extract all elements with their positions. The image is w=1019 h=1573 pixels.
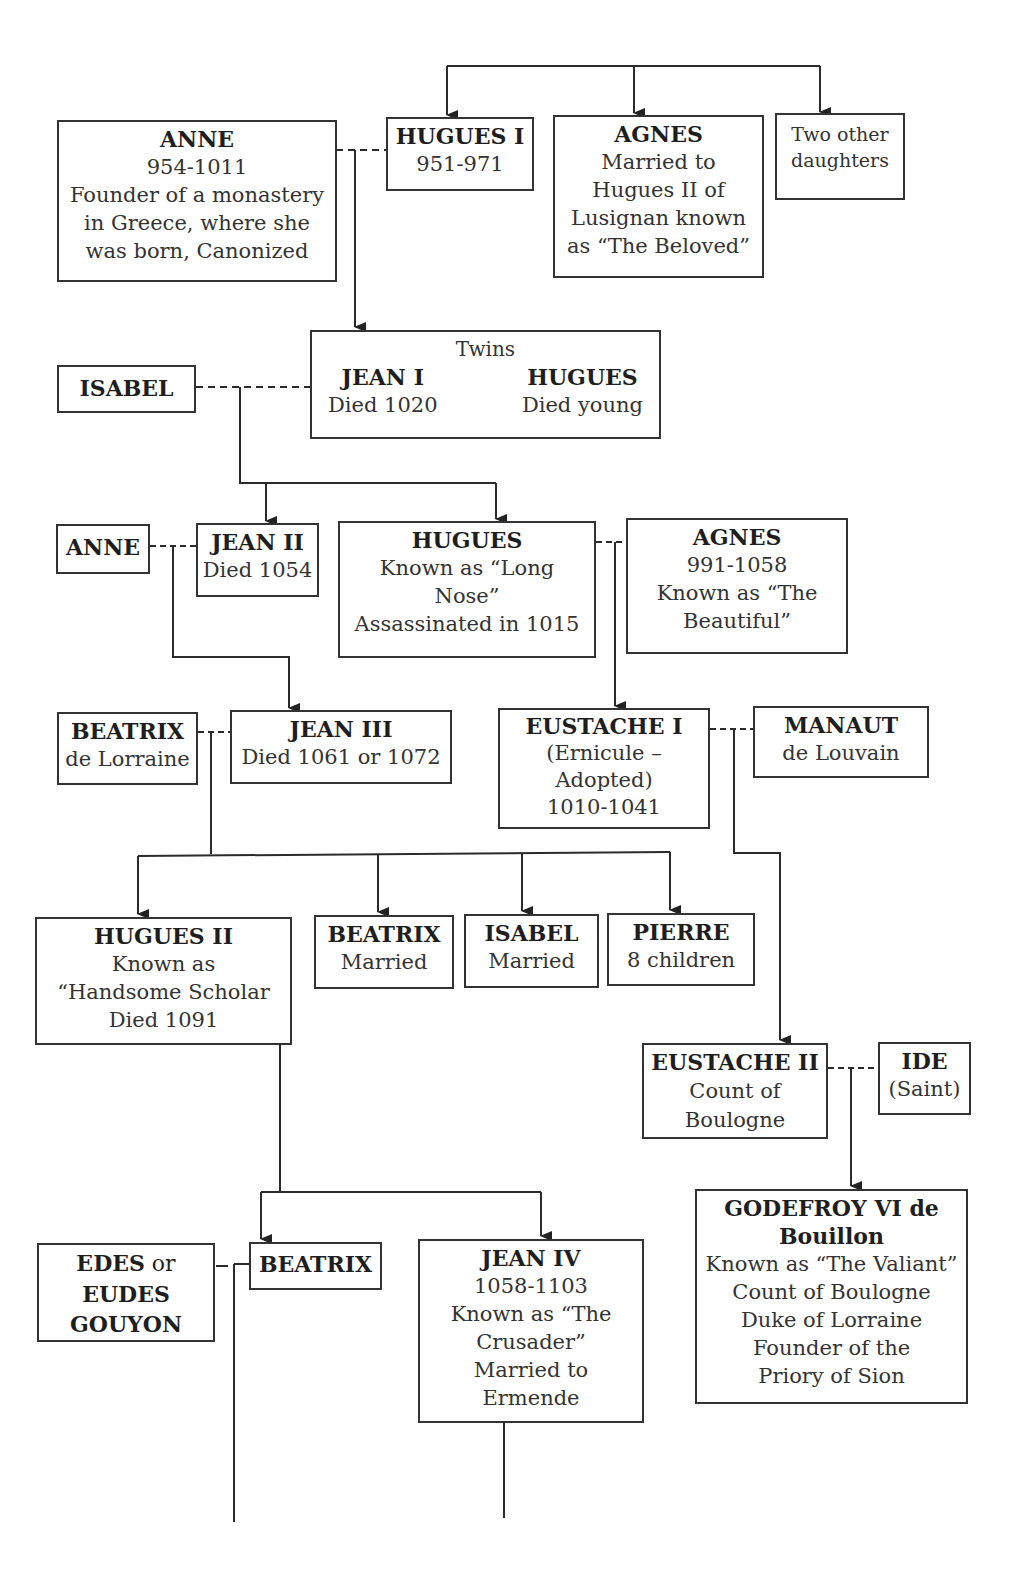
node-name: EUSTACHE II xyxy=(646,1048,824,1077)
node-line: Died 1091 xyxy=(39,1006,288,1034)
node-name: ANNE xyxy=(60,533,146,561)
node-line: 991-1058 xyxy=(630,551,844,579)
node-name: AGNES xyxy=(557,120,760,148)
node-line: Founder of the xyxy=(699,1334,964,1362)
twin-jean-i: JEAN I Died 1020 xyxy=(328,363,438,419)
node-name-edes: EDES xyxy=(76,1250,145,1276)
node-line: Ermende xyxy=(422,1384,640,1412)
node-eustache-i: EUSTACHE I (Ernicule – Adopted) 1010-104… xyxy=(498,708,710,829)
node-line: Known as “The xyxy=(630,579,844,607)
node-name-or: or xyxy=(145,1251,176,1276)
family-tree-diagram: ANNE 954-1011 Founder of a monastery in … xyxy=(0,0,1019,1573)
node-line: Known as “Long xyxy=(342,554,592,582)
node-line: “Handsome Scholar xyxy=(39,978,288,1006)
node-line: Known as “The xyxy=(422,1300,640,1328)
node-pierre: PIERRE 8 children xyxy=(607,913,755,986)
node-name: PIERRE xyxy=(611,918,751,946)
node-line: Known as “The Valiant” xyxy=(699,1250,964,1278)
node-line: Two other xyxy=(779,121,901,147)
node-line: de Lorraine xyxy=(61,745,194,773)
node-name: BEATRIX xyxy=(61,717,194,745)
node-name: HUGUES I xyxy=(390,122,530,150)
node-beatrix-3: BEATRIX xyxy=(249,1242,382,1290)
node-ide: IDE (Saint) xyxy=(878,1042,971,1115)
node-jean-ii: JEAN II Died 1054 xyxy=(196,523,319,597)
node-line: Beautiful” xyxy=(630,607,844,635)
node-eustache-ii: EUSTACHE II Count of Boulogne xyxy=(642,1043,828,1139)
node-two-other-daughters: Two other daughters xyxy=(775,113,905,200)
node-line: 954-1011 xyxy=(61,153,333,181)
node-isabel: ISABEL xyxy=(57,365,196,413)
node-line: Duke of Lorraine xyxy=(699,1306,964,1334)
node-name: HUGUES II xyxy=(39,922,288,950)
node-line: Founder of a monastery xyxy=(61,181,333,209)
node-name: IDE xyxy=(882,1047,967,1075)
node-line: Count of xyxy=(646,1077,824,1106)
node-line: Adopted) xyxy=(502,767,706,794)
node-line: 1058-1103 xyxy=(422,1272,640,1300)
node-line: daughters xyxy=(779,147,901,173)
node-manaut: MANAUT de Louvain xyxy=(753,706,929,778)
node-beatrix-lorraine: BEATRIX de Lorraine xyxy=(57,712,198,785)
node-line: Nose” xyxy=(342,582,592,610)
node-name: JEAN II xyxy=(200,528,315,556)
node-name: BEATRIX xyxy=(318,920,450,948)
node-line: 8 children xyxy=(611,946,751,974)
node-isabel-married: ISABEL Married xyxy=(464,914,599,988)
node-line: de Louvain xyxy=(757,739,925,767)
node-name-gouyon: GOUYON xyxy=(41,1309,211,1339)
node-name: ISABEL xyxy=(61,374,192,402)
node-line: 951-971 xyxy=(390,150,530,178)
node-line: Died 1054 xyxy=(200,556,315,584)
node-line: Hugues II of xyxy=(557,176,760,204)
node-name: AGNES xyxy=(630,523,844,551)
node-line: Married xyxy=(318,948,450,976)
node-agnes-beautiful: AGNES 991-1058 Known as “The Beautiful” xyxy=(626,518,848,654)
node-line: Died 1061 or 1072 xyxy=(234,743,448,771)
node-name: BEATRIX xyxy=(253,1250,378,1278)
node-jean-iv: JEAN IV 1058-1103 Known as “The Crusader… xyxy=(418,1239,644,1423)
node-name-eudes: EUDES xyxy=(41,1279,211,1309)
node-line: Assassinated in 1015 xyxy=(342,610,592,638)
node-name: JEAN IV xyxy=(422,1244,640,1272)
node-name: GODEFROY VI de xyxy=(699,1194,964,1222)
node-name: ANNE xyxy=(61,125,333,153)
node-name: HUGUES xyxy=(522,363,643,391)
node-name-2: Bouillon xyxy=(699,1222,964,1250)
node-line: (Ernicule – xyxy=(502,740,706,767)
node-line: (Saint) xyxy=(882,1075,967,1103)
node-name: ISABEL xyxy=(468,919,595,947)
node-name: HUGUES xyxy=(342,526,592,554)
node-edes-gouyon: EDES or EUDES GOUYON xyxy=(37,1243,215,1342)
node-line: Count of Boulogne xyxy=(699,1278,964,1306)
node-agnes-beloved: AGNES Married to Hugues II of Lusignan k… xyxy=(553,115,764,278)
node-line: Married to xyxy=(557,148,760,176)
node-line: Married xyxy=(468,947,595,975)
node-line: Died 1020 xyxy=(328,391,438,419)
node-godefroy: GODEFROY VI de Bouillon Known as “The Va… xyxy=(695,1189,968,1404)
node-beatrix-married: BEATRIX Married xyxy=(314,915,454,989)
node-hugues-i: HUGUES I 951-971 xyxy=(386,117,534,191)
node-line: Died young xyxy=(522,391,643,419)
node-line: Known as xyxy=(39,950,288,978)
node-line: as “The Beloved” xyxy=(557,232,760,260)
node-anne-954: ANNE 954-1011 Founder of a monastery in … xyxy=(57,120,337,282)
node-name: JEAN I xyxy=(328,363,438,391)
node-name: JEAN III xyxy=(234,715,448,743)
node-name: MANAUT xyxy=(757,711,925,739)
node-line: 1010-1041 xyxy=(502,794,706,821)
node-line: Crusader” xyxy=(422,1328,640,1356)
node-name: EDES or xyxy=(41,1248,211,1279)
node-jean-iii: JEAN III Died 1061 or 1072 xyxy=(230,710,452,784)
node-line: Married to xyxy=(422,1356,640,1384)
node-name: EUSTACHE I xyxy=(502,713,706,740)
node-line: Boulogne xyxy=(646,1106,824,1135)
node-line: Priory of Sion xyxy=(699,1362,964,1390)
node-line: Lusignan known xyxy=(557,204,760,232)
node-line: was born, Canonized xyxy=(61,237,333,265)
node-twins: Twins JEAN I Died 1020 HUGUES Died young xyxy=(310,330,661,439)
node-hugues-long-nose: HUGUES Known as “Long Nose” Assassinated… xyxy=(338,521,596,658)
node-line: in Greece, where she xyxy=(61,209,333,237)
node-anne-2: ANNE xyxy=(56,524,150,574)
twin-hugues: HUGUES Died young xyxy=(522,363,643,419)
